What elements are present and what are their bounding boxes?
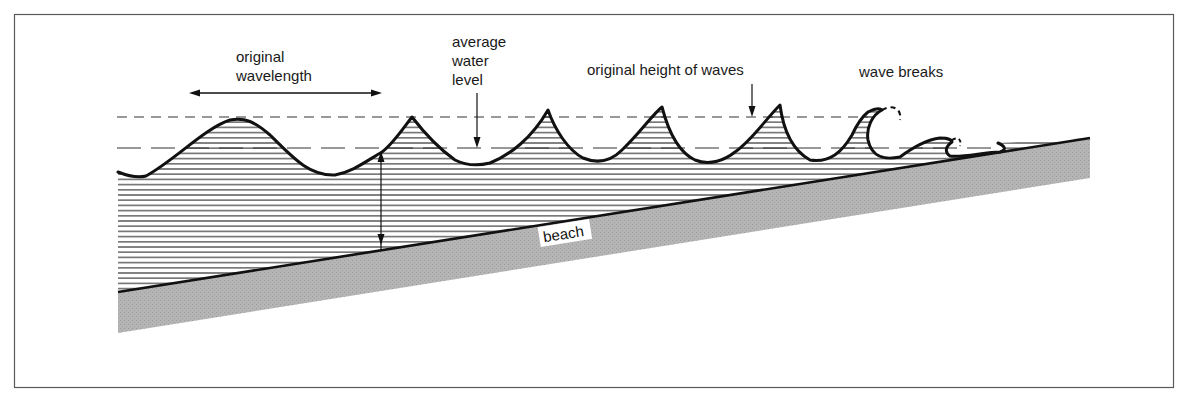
wavelength-label-line2: wavelength <box>235 67 312 84</box>
wave-diagram: original wavelength average water level … <box>0 0 1186 401</box>
water-level-label-line2: water <box>451 52 489 69</box>
wave-height-label: original height of waves <box>587 61 744 78</box>
wavelength-double-arrow <box>189 90 382 97</box>
wavelength-label-line1: original <box>236 48 284 65</box>
wave-height-arrow <box>749 84 756 117</box>
water-level-label-line3: level <box>452 71 483 88</box>
water-level-arrow <box>474 93 481 148</box>
wave-breaks-label: wave breaks <box>858 63 943 80</box>
breaking-spray-icon <box>882 107 900 120</box>
water-level-label-line1: average <box>452 33 506 50</box>
